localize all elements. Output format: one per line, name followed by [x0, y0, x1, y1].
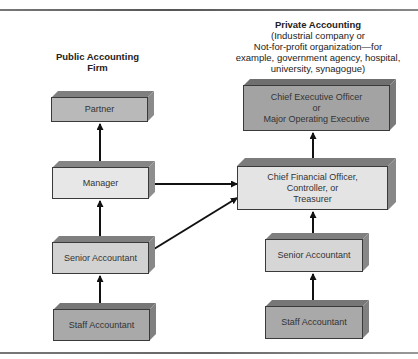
box-staff-accountant-public: Staff Accountant: [53, 303, 156, 341]
senior-accountant-private-label: Senior Accountant: [265, 239, 363, 272]
manager-label: Manager: [52, 167, 149, 199]
partner-label: Partner: [51, 97, 148, 122]
box-senior-accountant-private: Senior Accountant: [265, 233, 369, 272]
staff-accountant-public-label: Staff Accountant: [53, 309, 150, 341]
box-cfo: Chief Financial Officer, Controller, or …: [237, 158, 396, 210]
ceo-label: Chief Executive Officer or Major Operati…: [243, 85, 390, 131]
cfo-label: Chief Financial Officer, Controller, or …: [237, 166, 388, 210]
ceo-line-2: or: [312, 103, 320, 114]
arrow-senior-to-cfo: [154, 198, 237, 249]
cfo-line-2: Controller, or: [287, 183, 339, 194]
cfo-line-1: Chief Financial Officer,: [267, 172, 357, 183]
staff-accountant-private-label: Staff Accountant: [265, 306, 363, 339]
box-partner: Partner: [51, 91, 154, 122]
box-staff-accountant-private: Staff Accountant: [265, 300, 369, 339]
box-manager: Manager: [52, 161, 155, 199]
senior-accountant-public-label: Senior Accountant: [52, 242, 149, 274]
box-ceo: Chief Executive Officer or Major Operati…: [243, 79, 396, 131]
box-senior-accountant-public: Senior Accountant: [52, 236, 155, 274]
cfo-line-3: Treasurer: [293, 194, 332, 205]
ceo-line-1: Chief Executive Officer: [271, 92, 362, 103]
ceo-line-3: Major Operating Executive: [263, 114, 369, 125]
